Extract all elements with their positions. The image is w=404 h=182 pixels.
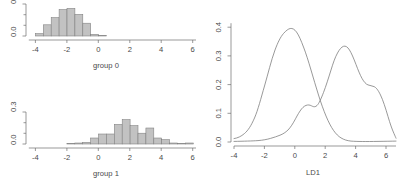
y-tick-label-0-3: 0.3 [9, 0, 18, 4]
y-tick-label: 0.2 [214, 79, 223, 90]
y-tick-label: 0.1 [214, 108, 223, 119]
bar [154, 138, 162, 144]
y-tick-label-1-0: 0.0 [9, 134, 18, 145]
x-tick-label: -4 [32, 45, 39, 54]
bar [138, 133, 146, 144]
histogram-bars-group-1 [67, 120, 193, 144]
histogram-group-0-svg: 0.3 0.0 [0, 0, 202, 91]
y-tick-label: 0.3 [214, 51, 223, 62]
y-tick-label: 0.0 [214, 137, 223, 148]
x-ticks-group-0 [35, 40, 192, 43]
histogram-group-1-svg: 0.3 0.0 [0, 91, 202, 182]
x-tick-label: 0 [293, 151, 297, 160]
bar [170, 143, 178, 144]
x-tick-label: -2 [64, 45, 71, 54]
y-tick-label-0-0: 0.0 [9, 26, 18, 37]
bar [43, 25, 51, 36]
histogram-bars-group-0 [35, 8, 106, 36]
bar [67, 8, 75, 36]
bar [91, 34, 99, 36]
bar [162, 140, 170, 144]
x-ticks-group-1 [35, 148, 192, 151]
bar [83, 142, 91, 144]
x-tick-label: 6 [191, 153, 195, 162]
density-curve-group-1 [234, 46, 396, 141]
bar [67, 144, 75, 145]
y-ticks-density [228, 27, 232, 142]
bar [99, 134, 107, 144]
bar [59, 10, 67, 36]
bar [83, 23, 91, 36]
x-tick-label: -2 [64, 153, 71, 162]
x-axis-title-group-0: group 0 [93, 61, 119, 70]
panel-histogram-group-1: 0.3 0.0 [0, 91, 202, 182]
lda-figure: 0.3 0.0 [0, 0, 404, 182]
panel-density-ld1: 0.0 0.1 0.2 0.3 0.4 -4 -2 [200, 0, 404, 182]
x-tick-labels-group-1: -4 -2 0 2 4 6 [32, 153, 195, 162]
bar [130, 126, 138, 144]
x-tick-labels-density: -4 -2 0 2 4 6 [231, 151, 389, 160]
x-tick-label: 0 [96, 153, 100, 162]
x-tick-label: 2 [128, 153, 132, 162]
x-tick-label: 2 [128, 45, 132, 54]
x-tick-label: 6 [191, 45, 195, 54]
bar [114, 124, 122, 144]
bar [75, 143, 83, 144]
panel-histogram-group-0: 0.3 0.0 [0, 0, 202, 91]
x-tick-labels-group-0: -4 -2 0 2 4 6 [32, 45, 195, 54]
bar [51, 18, 59, 36]
x-ticks-density [234, 146, 386, 149]
bar [178, 144, 186, 145]
x-tick-label: -2 [261, 151, 268, 160]
x-tick-label: 4 [159, 45, 163, 54]
bar [91, 138, 99, 144]
density-curve-group-0 [234, 28, 396, 141]
x-tick-label: 6 [384, 151, 388, 160]
bar [106, 134, 114, 144]
y-tick-label-1-3: 0.3 [9, 101, 18, 112]
x-axis-title-density: LD1 [306, 168, 320, 177]
bar [35, 34, 43, 36]
x-axis-title-group-1: group 1 [93, 169, 119, 178]
bar [75, 14, 83, 36]
x-tick-label: 2 [323, 151, 327, 160]
density-ld1-svg: 0.0 0.1 0.2 0.3 0.4 -4 -2 [200, 0, 404, 182]
x-tick-label: -4 [231, 151, 238, 160]
x-tick-label: 4 [353, 151, 357, 160]
x-tick-label: 4 [159, 153, 163, 162]
bar [146, 128, 154, 144]
bar [185, 143, 193, 144]
y-tick-label: 0.4 [214, 22, 223, 33]
x-tick-label: -4 [32, 153, 39, 162]
x-tick-label: 0 [96, 45, 100, 54]
bar [122, 120, 130, 144]
bar [99, 36, 107, 37]
y-tick-labels-density: 0.0 0.1 0.2 0.3 0.4 [214, 22, 223, 147]
